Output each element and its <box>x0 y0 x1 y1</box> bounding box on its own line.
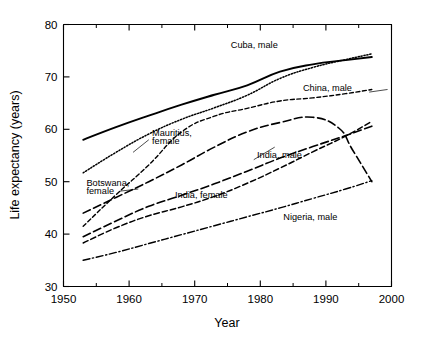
series-label-botswana-female: Botswana,female <box>86 178 129 197</box>
series-line-china-male <box>83 89 372 226</box>
x-tick-label: 2000 <box>379 293 405 305</box>
x-tick-label: 1980 <box>248 293 274 305</box>
y-tick-label: 40 <box>45 228 58 240</box>
plot-frame <box>64 25 392 287</box>
series-label-india-male: India, male <box>257 150 302 160</box>
x-axis-title: Year <box>214 316 239 330</box>
x-tick-label: 1970 <box>182 293 208 305</box>
y-tick-label: 70 <box>45 71 58 83</box>
series-line-mauritius-female <box>83 54 372 173</box>
y-tick-label: 50 <box>45 176 58 188</box>
series-label-india-female: India, female <box>175 190 228 200</box>
x-tick-label: 1960 <box>116 293 142 305</box>
series-line-cuba-male <box>83 57 372 140</box>
y-axis-ticks <box>64 25 70 287</box>
x-tick-label: 1950 <box>51 293 77 305</box>
series-label-mauritius-female: Mauritius,female <box>152 128 192 147</box>
y-tick-label: 30 <box>45 281 58 293</box>
x-axis-tick-labels: 195019601970198019902000 <box>51 293 405 305</box>
y-tick-label: 80 <box>45 19 58 31</box>
y-tick-label: 60 <box>45 123 58 135</box>
y-axis-tick-labels: 304050607080 <box>45 19 58 293</box>
series-label-cuba-male: Cuba, male <box>231 40 278 50</box>
chart-canvas: 304050607080 195019601970198019902000 Li… <box>0 0 422 343</box>
x-axis-ticks <box>64 25 392 287</box>
x-tick-label: 1990 <box>313 293 339 305</box>
axis-frame <box>64 25 392 287</box>
series-label-china-male: China, male <box>303 83 352 93</box>
life-expectancy-chart: 304050607080 195019601970198019902000 Li… <box>0 0 422 343</box>
series-label-nigeria-male: Nigeria, male <box>283 212 337 222</box>
y-axis-title: Life expectancy (years) <box>8 90 22 219</box>
